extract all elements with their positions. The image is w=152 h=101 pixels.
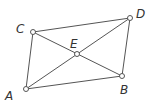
point-E-icon <box>75 52 80 57</box>
point-C-icon <box>31 30 36 35</box>
point-label-E: E <box>70 37 78 51</box>
point-label-B: B <box>120 83 128 97</box>
point-label-A: A <box>4 89 13 101</box>
point-A-icon <box>24 87 29 92</box>
geometry-diagram: ABCDE <box>0 0 152 101</box>
segment-CD <box>33 18 130 32</box>
segment-AC <box>26 32 33 89</box>
point-D-icon <box>128 16 133 21</box>
point-label-D: D <box>136 7 145 21</box>
segment-BA <box>26 76 122 89</box>
segment-DB <box>122 18 130 76</box>
point-B-icon <box>120 74 125 79</box>
point-label-C: C <box>16 22 25 36</box>
